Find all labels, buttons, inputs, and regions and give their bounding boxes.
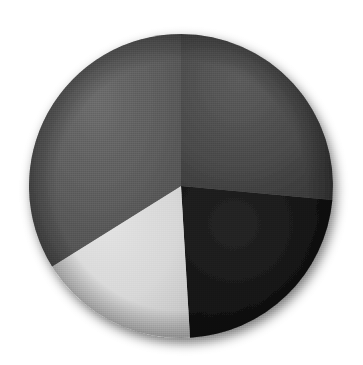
pie-body: [29, 34, 333, 338]
pie-edge-vignette: [29, 34, 333, 338]
chart-canvas: [0, 0, 363, 365]
pie-chart[interactable]: [0, 0, 363, 365]
